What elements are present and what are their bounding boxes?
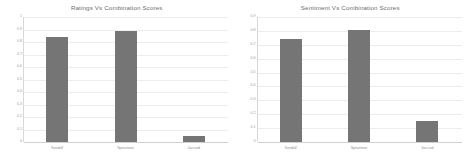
- x-axis-tick-label: Spearman: [91, 147, 159, 151]
- x-axis-tick-label: Spearman: [325, 147, 393, 151]
- x-axis-tick-label: Kendall: [23, 147, 91, 151]
- x-axis-tick-label: Jaccard: [160, 147, 228, 151]
- x-axis-ticks: KendallSpearmanJaccard: [234, 0, 467, 165]
- x-axis-tick-label: Kendall: [257, 147, 325, 151]
- chart-panel-sentiment: Sentiment Vs Combination Scores 00.10.20…: [234, 0, 467, 165]
- plot-area-sentiment: 00.10.20.30.40.50.60.70.80.9 KendallSpea…: [234, 0, 467, 165]
- chart-panel-ratings: Ratings Vs Combination Scores 00.10.20.3…: [0, 0, 234, 165]
- figure-canvas: Ratings Vs Combination Scores 00.10.20.3…: [0, 0, 467, 165]
- x-axis-ticks: KendallSpearmanJaccard: [0, 0, 234, 165]
- plot-area-ratings: 00.10.20.30.40.50.60.70.80.91 KendallSpe…: [0, 0, 234, 165]
- x-axis-tick-label: Jaccard: [393, 147, 461, 151]
